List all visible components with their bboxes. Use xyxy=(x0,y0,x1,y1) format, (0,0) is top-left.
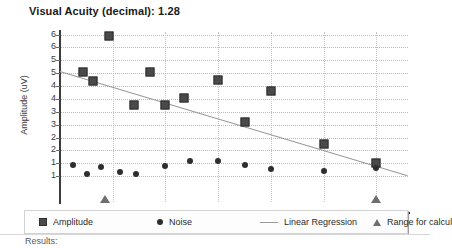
legend-item-noise[interactable]: Noise xyxy=(157,217,192,227)
data-point-noise xyxy=(133,171,139,177)
y-axis-tick-text: 4 xyxy=(0,81,56,90)
y-axis-tick-text: 1 xyxy=(0,158,56,167)
y-axis-tick-text: 5 xyxy=(0,68,56,77)
data-point-noise xyxy=(162,163,168,169)
legend-label-linear-regression: Linear Regression xyxy=(284,217,357,227)
data-point-noise xyxy=(70,162,76,168)
y-axis-tick-label: 1 xyxy=(0,171,56,180)
legend-label-amplitude: Amplitude xyxy=(53,217,93,227)
line-icon xyxy=(260,222,278,223)
data-point-noise xyxy=(84,171,90,177)
data-point-amplitude xyxy=(104,31,113,40)
y-axis-tick-text: 6 xyxy=(0,30,56,39)
data-point-amplitude xyxy=(129,101,138,110)
data-point-amplitude xyxy=(319,140,328,149)
triangle-icon xyxy=(373,219,381,226)
data-point-noise xyxy=(268,166,274,172)
y-axis-tick-text: 2 xyxy=(0,133,56,142)
y-axis-tick-label: 6 xyxy=(0,30,56,39)
y-axis-tick-text: 2 xyxy=(0,145,56,154)
plot-region xyxy=(60,32,408,202)
regression-line xyxy=(60,71,408,176)
chart-canvas: Amplitude (uV) 665544332211 051015202530 xyxy=(0,22,430,202)
y-axis-tick-text: 6 xyxy=(0,42,56,51)
data-point-noise xyxy=(321,168,327,174)
y-axis-tick-label: 1 xyxy=(0,158,56,167)
y-axis-tick-text: 3 xyxy=(0,107,56,116)
data-point-amplitude xyxy=(88,76,97,85)
y-axis-tick-label: 4 xyxy=(0,81,56,90)
y-axis-tick-label: 4 xyxy=(0,94,56,103)
square-icon xyxy=(39,218,47,226)
chart-legend: Amplitude Noise Linear Regression Range … xyxy=(24,210,408,234)
data-point-amplitude xyxy=(161,101,170,110)
data-point-amplitude xyxy=(240,118,249,127)
range-marker-triangle-icon xyxy=(100,195,110,203)
legend-item-linear-regression[interactable]: Linear Regression xyxy=(260,217,357,227)
legend-item-range-for-calcul[interactable]: Range for calcul xyxy=(373,217,452,227)
y-axis-tick-label: 5 xyxy=(0,55,56,64)
y-axis-tick-label: 3 xyxy=(0,120,56,129)
legend-label-range-for-calcul: Range for calcul xyxy=(387,217,452,227)
y-axis-tick-text: 3 xyxy=(0,120,56,129)
data-point-noise xyxy=(187,158,193,164)
y-axis-tick-label: 2 xyxy=(0,145,56,154)
data-point-noise xyxy=(242,162,248,168)
y-axis-tick-label: 2 xyxy=(0,133,56,142)
data-point-amplitude xyxy=(145,67,154,76)
y-axis-tick-label: 3 xyxy=(0,107,56,116)
legend-item-amplitude[interactable]: Amplitude xyxy=(39,217,93,227)
data-point-noise xyxy=(373,165,379,171)
data-point-amplitude xyxy=(79,67,88,76)
data-point-noise xyxy=(215,158,221,164)
y-axis-tick-text: 5 xyxy=(0,55,56,64)
y-axis-tick-label: 5 xyxy=(0,68,56,77)
data-point-amplitude xyxy=(266,87,275,96)
y-axis-tick-label: 6 xyxy=(0,42,56,51)
results-label: Results: xyxy=(25,236,58,246)
circle-icon xyxy=(157,219,163,225)
data-point-noise xyxy=(117,169,123,175)
data-point-amplitude xyxy=(180,93,189,102)
data-point-noise xyxy=(98,164,104,170)
y-axis-tick-text: 4 xyxy=(0,94,56,103)
page-title: Visual Acuity (decimal): 1.28 xyxy=(29,5,180,17)
range-marker-triangle-icon xyxy=(371,195,381,203)
data-point-amplitude xyxy=(214,75,223,84)
y-axis-tick-text: 1 xyxy=(0,171,56,180)
legend-label-noise: Noise xyxy=(169,217,192,227)
footer-divider xyxy=(0,234,430,235)
